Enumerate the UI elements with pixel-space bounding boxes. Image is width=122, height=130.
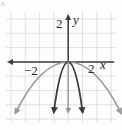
x-tick-label-2: 2 bbox=[88, 62, 95, 75]
y-tick-label-2: 2 bbox=[56, 17, 63, 30]
y-axis-label: y bbox=[73, 13, 79, 26]
graph-figure: y, bbox=[0, 0, 122, 130]
x-tick-label-negative-2: −2 bbox=[24, 64, 38, 77]
x-axis-label: x bbox=[100, 58, 106, 71]
